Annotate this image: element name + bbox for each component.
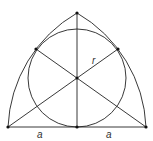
vertex-top — [75, 11, 78, 14]
diagonal-left — [8, 49, 118, 127]
reuleaux-diagram: r a a — [0, 0, 153, 141]
point-upper-left — [34, 47, 37, 50]
base-midpoint — [75, 125, 78, 128]
vertex-bottom-left — [6, 125, 9, 128]
diagonal-right — [36, 49, 146, 127]
right-a-label: a — [106, 129, 112, 140]
radius-label: r — [92, 55, 96, 66]
vertex-bottom-right — [144, 125, 147, 128]
center-point — [75, 76, 78, 79]
point-upper-right — [116, 47, 119, 50]
left-a-label: a — [37, 129, 43, 140]
